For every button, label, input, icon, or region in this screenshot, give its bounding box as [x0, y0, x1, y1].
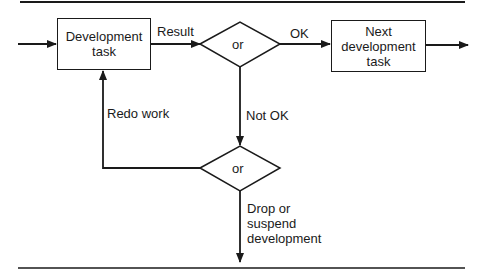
redo-work-label: Redo work — [107, 106, 169, 121]
drop-line3: development — [247, 231, 321, 246]
drop-line1: Drop or — [247, 201, 321, 216]
drop-line2: suspend — [247, 216, 321, 231]
next-task-line3: task — [341, 54, 415, 69]
next-task-node: Next development task — [331, 20, 426, 72]
ok-label: OK — [290, 26, 309, 41]
drop-label: Drop or suspend development — [247, 201, 321, 246]
result-label: Result — [157, 24, 194, 39]
development-task-line1: Development — [66, 29, 143, 44]
not-ok-label: Not OK — [246, 108, 289, 123]
decision-2-label: or — [232, 161, 244, 176]
development-task-node: Development task — [57, 18, 151, 70]
next-task-line2: development — [341, 39, 415, 54]
development-task-line2: task — [66, 44, 143, 59]
next-task-line1: Next — [341, 24, 415, 39]
decision-1-label: or — [232, 37, 244, 52]
